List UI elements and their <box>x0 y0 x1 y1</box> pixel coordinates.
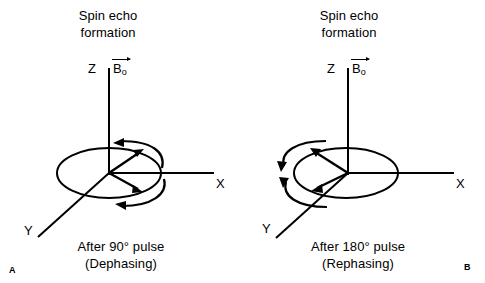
panel-b-caption-line2: (Rephasing) <box>322 256 394 271</box>
panel-b-corner-label: B <box>464 262 471 272</box>
panel-a-caption-line2: (Dephasing) <box>85 256 157 271</box>
panel-a-caption-line1: After 90° pulse <box>78 239 165 254</box>
spin-echo-figure: Spin echo formation Z Bo X Y <box>0 0 485 283</box>
panel-a-caption: After 90° pulse (Dephasing) <box>31 239 211 273</box>
panel-b: Spin echo formation Z Bo X Y <box>242 0 484 283</box>
panel-b-caption-line1: After 180° pulse <box>311 239 405 254</box>
panel-b-vector-up-left <box>310 148 348 173</box>
panel-a-vector-down-right <box>109 173 143 193</box>
panel-b-arc-upper <box>277 141 326 172</box>
panel-a-corner-label: A <box>9 265 16 275</box>
panel-a: Spin echo formation Z Bo X Y <box>0 0 242 283</box>
panel-a-y-axis <box>38 173 109 237</box>
panel-a-vector-up-right <box>109 149 144 173</box>
panel-b-caption: After 180° pulse (Rephasing) <box>268 239 448 273</box>
